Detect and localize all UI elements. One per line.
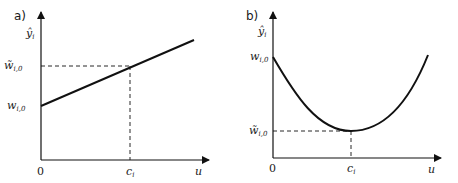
panel-b-label: b) bbox=[246, 9, 258, 23]
y-tick-w: wi,0 bbox=[7, 99, 26, 113]
panel-b: b) ŷi wi,0 w̃i,0 0 ci u bbox=[246, 9, 441, 176]
x-tick-c: ci bbox=[126, 165, 134, 179]
panel-a-label: a) bbox=[14, 9, 26, 23]
x-axis-label: u bbox=[195, 165, 202, 178]
origin-label: 0 bbox=[269, 162, 276, 175]
y-tick-w-tilde: w̃i,0 bbox=[249, 124, 268, 138]
origin-label: 0 bbox=[37, 165, 44, 178]
panel-a: a) ŷi w̃i,0 wi,0 0 ci u bbox=[4, 9, 209, 179]
linear-curve bbox=[41, 40, 194, 106]
diagram-canvas: a) ŷi w̃i,0 wi,0 0 ci u b) ŷi wi,0 w̃i,0 bbox=[0, 0, 458, 183]
y-axis-label: ŷi bbox=[25, 27, 34, 41]
y-axis-label: ŷi bbox=[257, 25, 266, 39]
x-axis-label: u bbox=[428, 163, 435, 176]
parabolic-curve bbox=[273, 55, 428, 131]
y-tick-w-tilde: w̃i,0 bbox=[4, 59, 23, 73]
y-tick-w: wi,0 bbox=[250, 50, 269, 64]
x-tick-c: ci bbox=[347, 162, 355, 176]
